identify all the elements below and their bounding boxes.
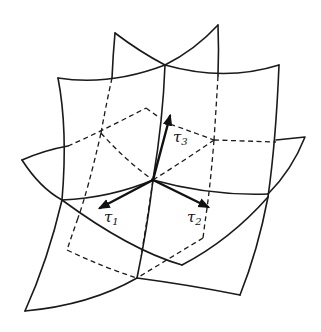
surfaces-diagram: τ1 τ2 τ3 [0,0,321,332]
diagram-canvas [0,0,321,332]
label-tau1: τ1 [104,210,119,227]
hidden-edges [67,76,276,278]
surface-right-vertical [165,25,279,295]
tau2-vector [153,180,208,207]
label-tau2: τ2 [187,210,202,227]
tangent-vectors [100,116,208,208]
surface-left-vertical [58,33,165,200]
label-tau3: τ3 [173,130,188,147]
